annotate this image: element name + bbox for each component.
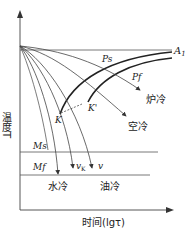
a1-label: A1 xyxy=(173,45,186,58)
ps-label: Ps xyxy=(101,54,113,64)
ms-label: Ms xyxy=(32,141,47,151)
mf-label: Mf xyxy=(32,162,47,172)
furnace-cooling-label: 炉冷 xyxy=(146,93,166,105)
k-label: K xyxy=(54,115,63,125)
y-axis xyxy=(17,10,23,210)
air-cooling-label: 空冷 xyxy=(128,120,148,132)
water-cooling-label: 水冷 xyxy=(48,180,68,192)
y-axis-label: 温度T xyxy=(1,112,12,139)
pf-label: Pf xyxy=(131,72,143,82)
v-label: v xyxy=(98,161,103,171)
x-axis xyxy=(20,207,174,213)
oil-cooling-label: 油冷 xyxy=(100,180,120,192)
k-prime-label: K' xyxy=(87,103,97,113)
water-cooling-curve xyxy=(20,46,58,174)
furnace-cooling-curve xyxy=(20,46,140,90)
vk-label: vK xyxy=(76,161,86,172)
cct-diagram: A1 Ps Pf K' K 炉冷 空冷 Ms Mf vK v 水冷 油冷 时间(… xyxy=(0,0,191,234)
x-axis-label: 时间(lgτ) xyxy=(82,216,125,228)
